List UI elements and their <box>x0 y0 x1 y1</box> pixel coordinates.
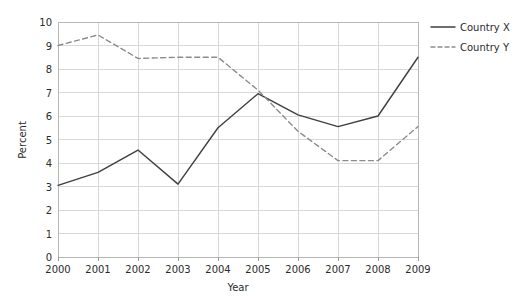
y-tick-1: 1 <box>46 229 52 240</box>
x-tick-2003: 2003 <box>165 264 190 275</box>
x-tick-2001: 2001 <box>85 264 110 275</box>
y-axis-title: Percent <box>17 121 28 159</box>
y-tick-3: 3 <box>46 182 52 193</box>
x-tick-2008: 2008 <box>365 264 390 275</box>
legend-label-country-y: Country Y <box>460 42 510 53</box>
x-tick-2009: 2009 <box>405 264 430 275</box>
x-tick-2005: 2005 <box>245 264 270 275</box>
y-tick-2: 2 <box>46 205 52 216</box>
y-axis-tick-labels: 10 9 8 7 6 5 4 3 2 1 0 <box>39 17 52 263</box>
x-axis-tickmarks <box>58 257 418 261</box>
y-tick-0: 0 <box>46 252 52 263</box>
x-axis-title: Year <box>226 282 249 293</box>
y-tick-10: 10 <box>39 17 52 28</box>
x-tick-2004: 2004 <box>205 264 230 275</box>
y-tick-4: 4 <box>46 158 52 169</box>
legend-label-country-x: Country X <box>460 22 510 33</box>
x-tick-2006: 2006 <box>285 264 310 275</box>
y-tick-7: 7 <box>46 88 52 99</box>
line-chart-figure: 10 9 8 7 6 5 4 3 2 1 0 2000 2001 2002 20… <box>0 0 518 296</box>
legend: Country X Country Y <box>431 22 510 53</box>
y-tick-5: 5 <box>46 135 52 146</box>
x-tick-2000: 2000 <box>45 264 70 275</box>
y-tick-8: 8 <box>46 64 52 75</box>
x-tick-2002: 2002 <box>125 264 150 275</box>
chart-canvas: 10 9 8 7 6 5 4 3 2 1 0 2000 2001 2002 20… <box>0 0 518 296</box>
x-tick-2007: 2007 <box>325 264 350 275</box>
y-tick-9: 9 <box>46 41 52 52</box>
x-axis-tick-labels: 2000 2001 2002 2003 2004 2005 2006 2007 … <box>45 264 430 275</box>
y-tick-6: 6 <box>46 111 52 122</box>
